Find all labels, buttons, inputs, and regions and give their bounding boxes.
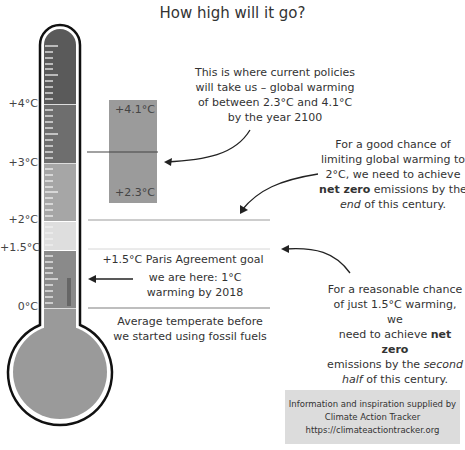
current-level-bar xyxy=(67,278,71,306)
credit-box: Information and inspiration supplied by … xyxy=(285,390,460,444)
label-3c: +3°C xyxy=(0,156,38,169)
credit-link[interactable]: https://climateactiontracker.org xyxy=(285,424,460,437)
label-1-5c: +1.5°C xyxy=(0,241,38,254)
credit-line-1: Information and inspiration supplied by xyxy=(285,398,460,411)
band-1.5-to-2 xyxy=(44,222,76,250)
label-2c: +2°C xyxy=(0,213,38,226)
note-baseline: Average temperate before we started usin… xyxy=(100,314,280,344)
note-we-are-here: we are here: 1°C warming by 2018 xyxy=(135,270,255,300)
projection-bottom-label: +2.3°C xyxy=(115,186,155,199)
arrow-one-point-five xyxy=(285,249,350,273)
note-two-degrees: For a good chance of limiting global war… xyxy=(318,137,465,212)
arrow-current-policies xyxy=(166,130,250,162)
label-4c: +4°C xyxy=(0,97,38,110)
paris-goal-label: +1.5°C Paris Agreement goal xyxy=(88,252,278,267)
projection-top-label: +4.1°C xyxy=(115,103,155,116)
note-current-policies: This is where current policies will take… xyxy=(180,65,370,125)
label-0c: 0°C xyxy=(0,300,38,313)
note-one-point-five: For a reasonable chance of just 1.5°C wa… xyxy=(325,282,465,387)
arrow-two-degrees xyxy=(242,174,318,210)
credit-line-2: Climate Action Tracker xyxy=(285,411,460,424)
